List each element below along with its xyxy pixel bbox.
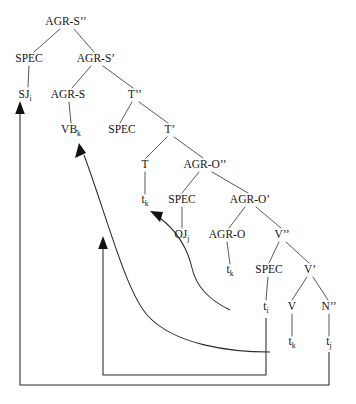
tree-branches xyxy=(28,29,329,336)
branch-spec4-ti1 xyxy=(266,277,268,300)
node-vb: VBk xyxy=(61,123,81,138)
branch-agro2-agro1 xyxy=(212,172,248,193)
node-agro2: AGR-O’’ xyxy=(183,158,226,170)
branch-agrs2-spec1 xyxy=(34,29,60,52)
node-agrs2: AGR-S’’ xyxy=(45,15,86,27)
branch-v1-v0 xyxy=(292,277,307,300)
node-tk1: tk xyxy=(142,193,149,208)
node-spec4: SPEC xyxy=(255,263,283,275)
movement-arrow-tj-to-sj xyxy=(20,112,329,385)
movement-arrowhead-t xyxy=(150,211,163,222)
node-v0: V xyxy=(288,300,297,312)
node-tk3: tk xyxy=(289,335,296,350)
node-agrs0: AGR-S xyxy=(51,88,86,100)
node-v1: V’ xyxy=(304,263,316,275)
tree-node-labels: AGR-S’’ SPEC AGR-S’ SJi AGR-S T’’ VBk SP… xyxy=(15,15,336,350)
branch-v2-spec4 xyxy=(269,242,279,263)
node-agro1: AGR-O’ xyxy=(230,193,270,205)
movement-arrows xyxy=(15,101,329,385)
branch-agrs0-vb xyxy=(69,102,71,123)
node-n2: N’’ xyxy=(321,300,336,312)
branch-agrs1-agrs0 xyxy=(72,66,91,88)
node-v2: V’’ xyxy=(274,228,289,240)
movement-arrow-ti-to-oj xyxy=(103,247,266,375)
branch-t1-agro2 xyxy=(174,137,203,158)
branch-v1-n2 xyxy=(313,277,328,300)
node-spec3: SPEC xyxy=(168,193,196,205)
branch-agro1-agro0 xyxy=(229,207,245,228)
branch-agrs1-t2 xyxy=(103,66,133,88)
node-t0: T xyxy=(141,158,148,170)
movement-arrowhead-sj xyxy=(15,101,25,114)
branch-agro0-tk2 xyxy=(227,242,230,264)
movement-arrowhead-oj xyxy=(98,236,108,249)
branch-agro2-spec3 xyxy=(182,172,199,193)
branch-t1-t0 xyxy=(146,137,167,158)
branch-t2-spec2 xyxy=(120,102,132,123)
node-t1: T’ xyxy=(165,123,176,135)
node-tk2: tk xyxy=(227,263,234,278)
node-t2: T’’ xyxy=(128,88,142,100)
node-agrs1: AGR-S’ xyxy=(77,52,115,64)
node-spec1: SPEC xyxy=(15,52,43,64)
node-spec2: SPEC xyxy=(108,123,136,135)
node-tj1: tj xyxy=(326,335,331,350)
branch-agro1-v2 xyxy=(256,207,281,228)
syntax-tree-figure: AGR-S’’ SPEC AGR-S’ SJi AGR-S T’’ VBk SP… xyxy=(0,0,356,404)
branch-t2-t1 xyxy=(139,102,168,123)
node-oj: OJj xyxy=(175,228,190,243)
node-agro0: AGR-O xyxy=(209,228,245,240)
node-sj: SJi xyxy=(19,88,32,103)
movement-arrow-tk-to-vb xyxy=(84,155,270,352)
node-ti1: ti xyxy=(263,300,268,315)
branch-spec1-sj xyxy=(28,66,29,87)
branch-agrs2-agrs1 xyxy=(74,29,94,52)
branch-v2-v1 xyxy=(286,242,309,263)
tree-canvas: AGR-S’’ SPEC AGR-S’ SJi AGR-S T’’ VBk SP… xyxy=(0,0,356,404)
